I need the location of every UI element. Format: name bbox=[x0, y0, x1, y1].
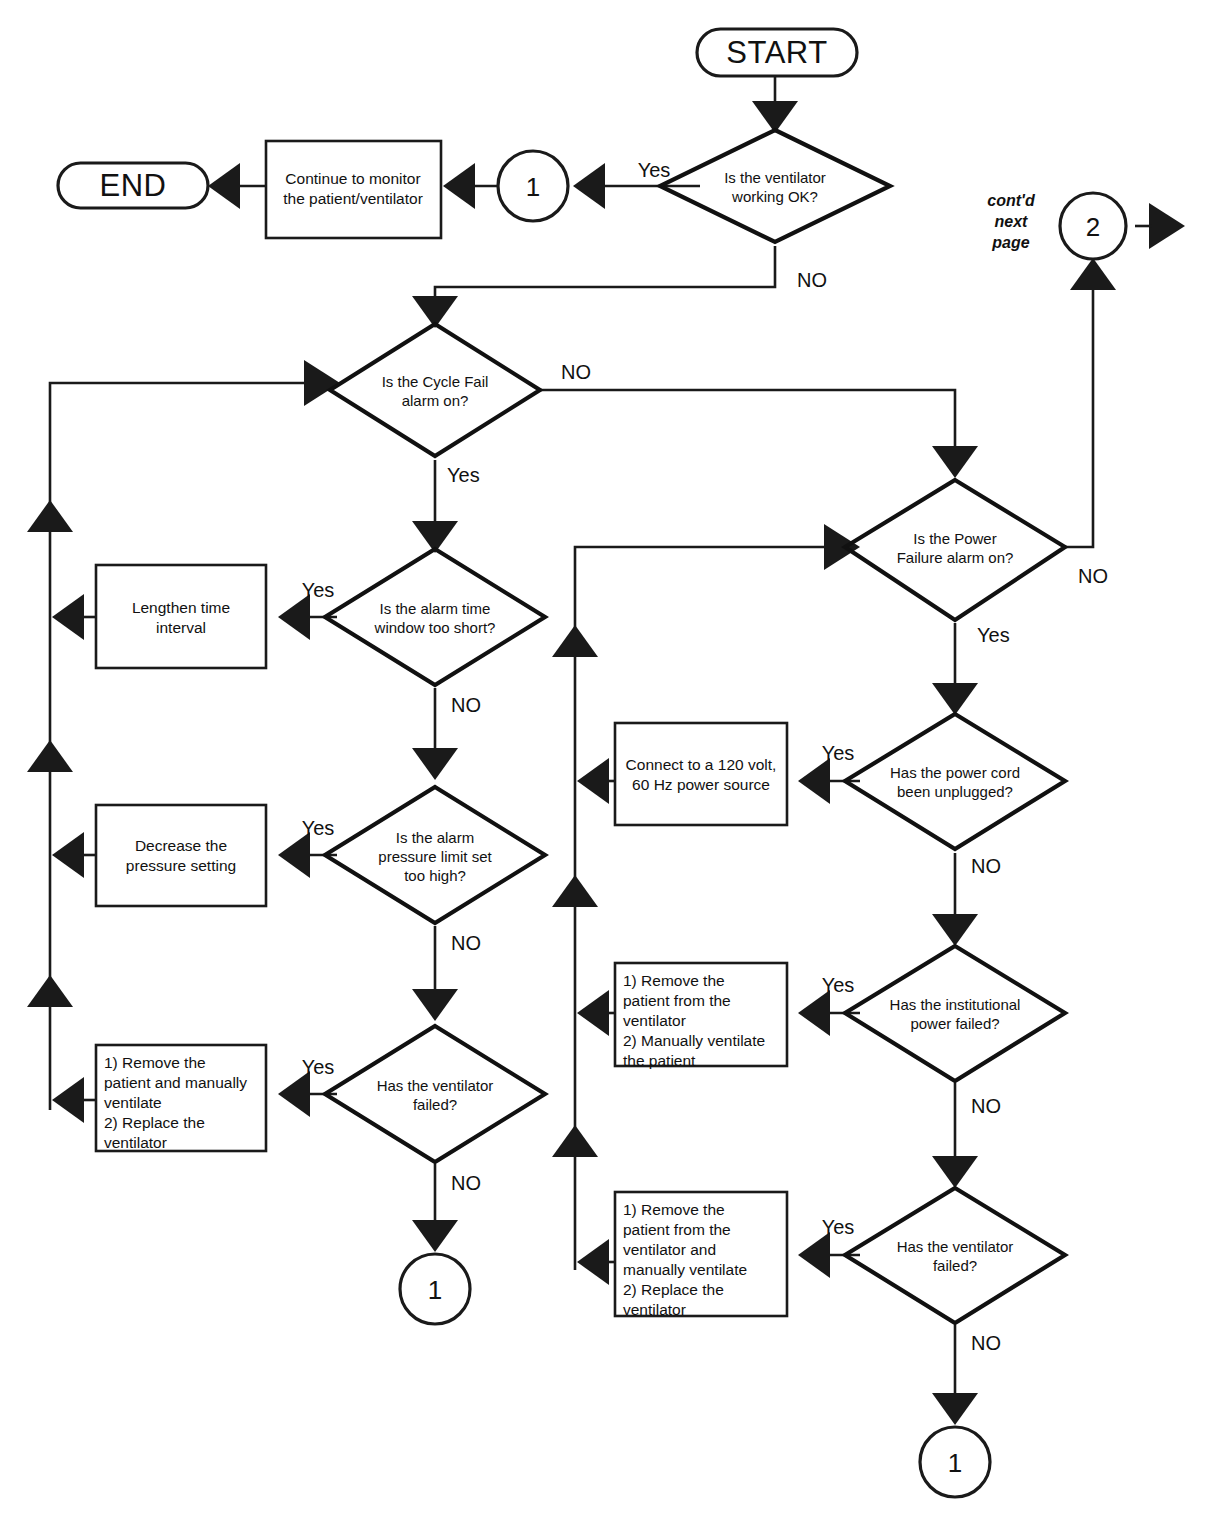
edge-label-power-cord-no: NO bbox=[971, 855, 1001, 877]
process-lengthen-line1: Lengthen time bbox=[132, 599, 230, 616]
process-rrl-line3: ventilate bbox=[104, 1094, 162, 1111]
decision-ventilator-failed-right: Has the ventilator failed? bbox=[845, 1188, 1065, 1323]
arrowhead-right bbox=[1149, 203, 1185, 249]
decision-alarm-pressure-line1: Is the alarm bbox=[396, 829, 474, 846]
flowchart-canvas: START END 1 2 1 1 cont'd next page Is th… bbox=[0, 0, 1205, 1528]
contd-line-3: page bbox=[991, 234, 1029, 251]
arrowhead-down bbox=[412, 989, 458, 1021]
decision-cycle-fail-line1: Is the Cycle Fail bbox=[382, 373, 489, 390]
process-connect-line2: 60 Hz power source bbox=[632, 776, 770, 793]
connector-circle-1-top: 1 bbox=[498, 151, 568, 221]
process-rrr-line3: ventilator and bbox=[623, 1241, 716, 1258]
process-rmv-line2: patient from the bbox=[623, 992, 731, 1009]
contd-line-2: next bbox=[995, 213, 1029, 230]
arrowhead-down bbox=[412, 1220, 458, 1252]
edge-label-power-failure-yes: Yes bbox=[977, 624, 1010, 646]
process-decrease-line2: pressure setting bbox=[126, 857, 236, 874]
connector-2-label: 2 bbox=[1086, 212, 1100, 242]
process-decrease-line1: Decrease the bbox=[135, 837, 227, 854]
arrowhead-up bbox=[27, 740, 73, 772]
decision-institutional-line2: power failed? bbox=[910, 1015, 999, 1032]
arrowhead-left bbox=[573, 163, 605, 209]
decision-institutional-line1: Has the institutional bbox=[890, 996, 1021, 1013]
flowchart-page: START END 1 2 1 1 cont'd next page Is th… bbox=[0, 0, 1205, 1528]
connector-1-bottom-left-label: 1 bbox=[428, 1275, 442, 1305]
decision-cycle-fail-line2: alarm on? bbox=[402, 392, 469, 409]
decision-power-failure-line2: Failure alarm on? bbox=[897, 549, 1014, 566]
process-lengthen-time-interval: Lengthen time interval bbox=[96, 565, 266, 668]
process-rmv-line3: ventilator bbox=[623, 1012, 686, 1029]
arrowhead-up bbox=[552, 875, 598, 907]
arrowhead-left bbox=[443, 163, 475, 209]
process-rrr-line6: ventilator bbox=[623, 1301, 686, 1318]
arrowhead-left bbox=[798, 990, 830, 1036]
connector-circle-1-bottom-left: 1 bbox=[400, 1254, 470, 1324]
process-lengthen-line2: interval bbox=[156, 619, 206, 636]
arrowhead-up bbox=[1070, 258, 1116, 290]
process-rrl-line5: ventilator bbox=[104, 1134, 167, 1151]
edge-label-vent-ok-no: NO bbox=[797, 269, 827, 291]
process-decrease-pressure-setting: Decrease the pressure setting bbox=[96, 805, 266, 906]
arrowhead-left bbox=[52, 1077, 84, 1123]
process-rmv-line5: the patient bbox=[623, 1052, 696, 1069]
process-rrr-line4: manually ventilate bbox=[623, 1261, 747, 1278]
decision-cycle-fail-alarm: Is the Cycle Fail alarm on? bbox=[330, 324, 540, 456]
arrowhead-left bbox=[577, 990, 609, 1036]
connector-circle-2: 2 bbox=[1060, 193, 1126, 259]
arrowhead-down bbox=[932, 1156, 978, 1188]
process-remove-manually-ventilate: 1) Remove the patient from the ventilato… bbox=[615, 963, 787, 1069]
edge-label-vent-ok-yes: Yes bbox=[638, 159, 671, 181]
arrowhead-down bbox=[412, 748, 458, 780]
process-remove-replace-ventilator-right: 1) Remove the patient from the ventilato… bbox=[615, 1192, 787, 1318]
start-label: START bbox=[726, 35, 827, 70]
edge-label-power-cord-yes: Yes bbox=[822, 742, 855, 764]
decision-institutional-power-failed: Has the institutional power failed? bbox=[845, 946, 1065, 1081]
decision-alarm-pressure-limit: Is the alarm pressure limit set too high… bbox=[325, 787, 545, 923]
arrowhead-left bbox=[798, 1232, 830, 1278]
arrowhead-down bbox=[932, 683, 978, 715]
decision-ventilator-failed-left: Has the ventilator failed? bbox=[325, 1026, 545, 1162]
arrowhead-left bbox=[798, 758, 830, 804]
decision-alarm-pressure-line2: pressure limit set bbox=[378, 848, 492, 865]
edge-label-vent-failed-left-yes: Yes bbox=[302, 1056, 335, 1078]
contd-next-page-note: cont'd next page bbox=[987, 192, 1036, 251]
arrowhead-left bbox=[577, 1239, 609, 1285]
arrowhead-down bbox=[932, 446, 978, 478]
decision-vent-ok-line2: working OK? bbox=[731, 188, 818, 205]
connector-lines bbox=[50, 76, 1093, 1418]
terminator-start: START bbox=[697, 29, 857, 76]
edge-label-vent-failed-right-no: NO bbox=[971, 1332, 1001, 1354]
process-rrr-line1: 1) Remove the bbox=[623, 1201, 725, 1218]
decision-alarm-time-window: Is the alarm time window too short? bbox=[325, 549, 545, 685]
edge-label-vent-failed-left-no: NO bbox=[451, 1172, 481, 1194]
process-continue-line2: the patient/ventilator bbox=[283, 190, 423, 207]
process-rrl-line4: 2) Replace the bbox=[104, 1114, 205, 1131]
contd-line-1: cont'd bbox=[987, 192, 1036, 209]
arrowhead-left bbox=[208, 163, 240, 209]
edge-label-institutional-no: NO bbox=[971, 1095, 1001, 1117]
decision-alarm-time-line2: window too short? bbox=[374, 619, 496, 636]
arrowhead-down bbox=[932, 914, 978, 946]
decision-power-cord-line1: Has the power cord bbox=[890, 764, 1020, 781]
end-label: END bbox=[100, 168, 167, 203]
edge-label-alarm-pressure-no: NO bbox=[451, 932, 481, 954]
edge-label-power-failure-no: NO bbox=[1078, 565, 1108, 587]
process-connect-line1: Connect to a 120 volt, bbox=[626, 756, 777, 773]
arrowhead-up bbox=[552, 625, 598, 657]
process-rmv-line4: 2) Manually ventilate bbox=[623, 1032, 765, 1049]
decision-alarm-time-line1: Is the alarm time bbox=[380, 600, 491, 617]
arrowhead-left bbox=[577, 758, 609, 804]
arrowheads bbox=[27, 101, 1185, 1425]
arrowhead-up bbox=[27, 500, 73, 532]
process-rrr-line2: patient from the bbox=[623, 1221, 731, 1238]
process-rrl-line1: 1) Remove the bbox=[104, 1054, 206, 1071]
arrowhead-up bbox=[27, 975, 73, 1007]
process-continue-to-monitor: Continue to monitor the patient/ventilat… bbox=[266, 141, 441, 238]
decision-vent-ok-line1: Is the ventilator bbox=[724, 169, 826, 186]
decision-power-failure-line1: Is the Power bbox=[913, 530, 996, 547]
decision-alarm-pressure-line3: too high? bbox=[404, 867, 466, 884]
decision-vent-failed-left-line1: Has the ventilator bbox=[377, 1077, 494, 1094]
connector-circle-1-bottom-right: 1 bbox=[920, 1427, 990, 1497]
edge-label-alarm-pressure-yes: Yes bbox=[302, 817, 335, 839]
decision-vent-failed-right-line1: Has the ventilator bbox=[897, 1238, 1014, 1255]
